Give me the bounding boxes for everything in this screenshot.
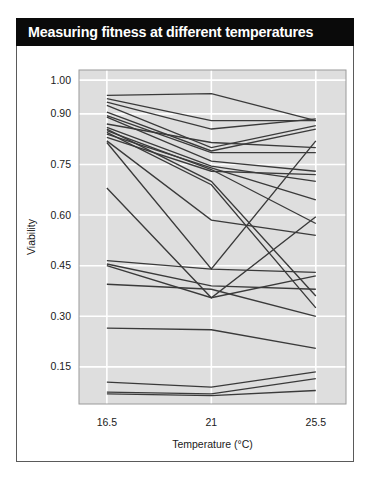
x-axis-tick-label: 16.5 (97, 416, 118, 428)
chart-title-bar: Measuring fitness at different temperatu… (16, 18, 354, 46)
y-axis-tick-label: 0.60 (51, 209, 72, 221)
y-axis-tick-label: 1.00 (51, 74, 72, 86)
page-title: Measuring fitness at different temperatu… (28, 18, 313, 46)
x-axis-tick-label: 25.5 (306, 416, 327, 428)
x-axis-tick-label: 21 (205, 416, 217, 428)
figure-panel: Measuring fitness at different temperatu… (16, 18, 354, 462)
y-axis-tick-label: 0.90 (51, 107, 72, 119)
y-axis-title: Viability (25, 218, 37, 255)
x-axis-title: Temperature (°C) (172, 438, 253, 450)
y-axis-tick-label: 0.30 (51, 310, 72, 322)
y-axis-tick-label: 0.45 (51, 259, 72, 271)
y-axis-tick-label: 0.75 (51, 158, 72, 170)
line-chart: 1.000.900.750.600.450.300.1516.52125.5Te… (17, 46, 353, 460)
plot-frame: 1.000.900.750.600.450.300.1516.52125.5Te… (16, 46, 354, 462)
y-axis-tick-label: 0.15 (51, 360, 72, 372)
